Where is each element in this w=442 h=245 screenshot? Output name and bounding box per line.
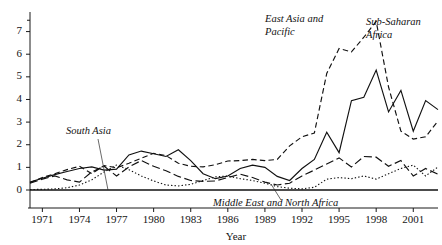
y-tick-label: 4 xyxy=(17,92,23,104)
east-asia-label-line2: Pacific xyxy=(264,26,295,37)
y-tick-label: 3 xyxy=(17,115,23,127)
x-tick-label: 1971 xyxy=(31,213,53,225)
y-tick-label: 0 xyxy=(17,183,23,195)
east-asia-label-line1: East Asia and xyxy=(264,13,324,24)
x-tick-label: 1980 xyxy=(143,213,166,225)
x-tick-label: 1986 xyxy=(217,213,240,225)
mena-label: Middle East and North Africa xyxy=(212,197,338,208)
y-tick-label: 2 xyxy=(17,137,23,149)
y-tick-label: 5 xyxy=(17,69,23,81)
x-axis-title: Year xyxy=(226,230,247,242)
chart-figure: 01234567 1971197419771980198319861989199… xyxy=(0,0,442,245)
x-tick-label: 1989 xyxy=(254,213,277,225)
y-tick-label: 6 xyxy=(17,47,23,59)
south-asia-label: South Asia xyxy=(66,125,111,136)
x-tick-label: 1998 xyxy=(365,213,388,225)
x-tick-label: 1995 xyxy=(328,213,351,225)
sub-saharan-label-line1: Sub-Saharan xyxy=(366,16,421,27)
x-tick-label: 1974 xyxy=(68,213,91,225)
x-tick-label: 1977 xyxy=(106,213,129,225)
sub-saharan-label-line2: Africa xyxy=(365,29,392,40)
y-tick-label: 7 xyxy=(17,24,23,36)
x-tick-label: 1992 xyxy=(291,213,313,225)
x-tick-label: 1983 xyxy=(180,213,203,225)
x-tick-label: 2001 xyxy=(402,213,424,225)
line-chart: 01234567 1971197419771980198319861989199… xyxy=(0,0,442,245)
y-tick-label: 1 xyxy=(17,160,23,172)
x-axis-tick-labels: 1971197419771980198319861989199219951998… xyxy=(31,213,424,225)
